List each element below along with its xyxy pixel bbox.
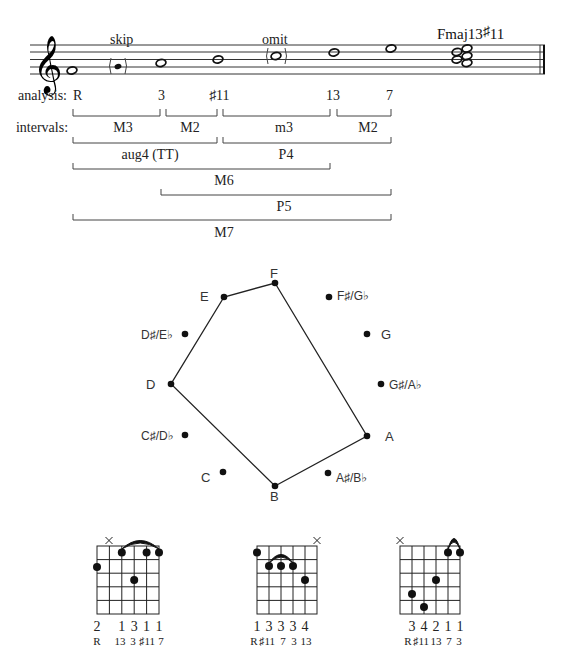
degree-label: 7 xyxy=(280,635,286,647)
finger-label: 1 xyxy=(457,619,464,634)
label-Ds: D♯/E♭ xyxy=(141,328,173,342)
degree-label: R xyxy=(93,635,101,647)
omit-label: omit xyxy=(262,32,288,47)
finger-label: 2 xyxy=(433,619,440,634)
skip-label: skip xyxy=(110,32,133,47)
muted-string-icon xyxy=(106,537,113,544)
muted-string-icon xyxy=(397,537,404,544)
point-Cs xyxy=(182,432,189,439)
treble-clef-icon: 𝄞 xyxy=(33,36,63,96)
degree-label: ♯11 xyxy=(259,635,275,647)
point-A xyxy=(364,433,371,440)
degree-label: R xyxy=(404,635,412,647)
point-E xyxy=(221,294,228,301)
label-As: A♯/B♭ xyxy=(336,471,367,485)
finger-label: 1 xyxy=(156,619,163,634)
finger-label: 1 xyxy=(118,619,125,634)
degree-sharp11: ♯11 xyxy=(209,88,229,103)
finger-label: 2 xyxy=(94,619,101,634)
degree-label: 3 xyxy=(130,635,136,647)
degree-13: 13 xyxy=(326,88,340,103)
point-C xyxy=(220,469,227,476)
label-G: G xyxy=(381,327,391,342)
chord-diagram-1: 2 1 3 1 1 R 13 3 ♯11 7 xyxy=(93,537,164,647)
label-A: A xyxy=(385,429,394,444)
point-G xyxy=(364,331,371,338)
skip-note xyxy=(110,58,127,74)
degree-label: ♯11 xyxy=(139,635,155,647)
interval-p4: P4 xyxy=(279,147,294,162)
finger-label: 1 xyxy=(445,619,452,634)
chord-diagram-3: 3 4 2 1 1 R ♯11 13 7 3 xyxy=(397,537,465,647)
analysis-label: analysis: xyxy=(18,88,67,103)
interval-p5: P5 xyxy=(277,199,292,214)
finger-label: 3 xyxy=(266,619,273,634)
label-D: D xyxy=(146,377,155,392)
label-Cs: C♯/D♭ xyxy=(141,429,173,443)
interval-m2-a: M2 xyxy=(180,120,199,135)
label-F: F xyxy=(270,266,278,281)
point-Ds xyxy=(182,331,189,338)
label-C: C xyxy=(201,470,210,485)
degree-label: 3 xyxy=(456,635,462,647)
finger-label: 4 xyxy=(421,619,428,634)
label-Fs: F♯/G♭ xyxy=(337,289,369,303)
barre-arc-icon xyxy=(448,539,460,550)
degree-label: R xyxy=(250,635,258,647)
chord-analysis-diagram: 𝄞 skip omit Fmaj13♯11 analysis: R 3 ♯11 … xyxy=(0,0,574,664)
chord-polygon xyxy=(171,283,367,486)
finger-label: 3 xyxy=(278,619,285,634)
muted-string-icon xyxy=(314,537,321,544)
degree-3: 3 xyxy=(158,88,165,103)
point-Fs xyxy=(326,294,333,301)
degree-label: 7 xyxy=(158,635,164,647)
degree-label: 13 xyxy=(301,635,313,647)
degree-root: R xyxy=(73,88,83,103)
interval-labels: intervals: M3 M2 m3 M2 aug4 (TT) P4 M6 P… xyxy=(16,120,378,240)
analysis-row: analysis: R 3 ♯11 13 7 xyxy=(18,88,393,103)
interval-m2-b: M2 xyxy=(358,120,377,135)
degree-7: 7 xyxy=(386,88,393,103)
intervals-label: intervals: xyxy=(16,120,68,135)
finger-label: 3 xyxy=(409,619,416,634)
degree-label: 7 xyxy=(446,635,452,647)
interval-minor3: m3 xyxy=(275,120,293,135)
degree-label: 13 xyxy=(115,635,127,647)
label-E: E xyxy=(200,289,209,304)
chord-diagram-2: 1 3 3 3 4 R ♯11 7 3 13 xyxy=(250,537,320,647)
pitch-class-circle: F F♯/G♭ G G♯/A♭ A A♯/B♭ B C C♯/D♭ D D♯/E… xyxy=(141,266,421,504)
chord-symbol: Fmaj13♯11 xyxy=(437,24,504,42)
barre-arc-icon xyxy=(122,541,159,550)
point-Gs xyxy=(378,381,385,388)
finger-label: 1 xyxy=(143,619,150,634)
point-D xyxy=(168,381,175,388)
degree-label: 13 xyxy=(431,635,443,647)
interval-m3-major: M3 xyxy=(113,120,132,135)
finger-label: 4 xyxy=(302,619,309,634)
point-As xyxy=(325,470,332,477)
finger-label: 3 xyxy=(131,619,138,634)
degree-label: 3 xyxy=(291,635,297,647)
interval-m7: M7 xyxy=(214,225,233,240)
label-Gs: G♯/A♭ xyxy=(389,378,421,392)
omit-parentheses xyxy=(267,48,287,64)
finger-label: 1 xyxy=(254,619,261,634)
label-B: B xyxy=(270,489,279,504)
degree-label: ♯11 xyxy=(413,635,429,647)
interval-aug4: aug4 (TT) xyxy=(121,147,178,163)
finger-label: 3 xyxy=(290,619,297,634)
interval-m6: M6 xyxy=(214,173,233,188)
